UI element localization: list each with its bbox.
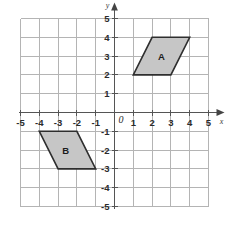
- shape-label-b: B: [62, 145, 69, 156]
- x-tick-label: 1: [131, 117, 137, 128]
- y-tick-label: -4: [101, 182, 110, 193]
- y-tick-label: -3: [101, 163, 109, 174]
- coordinate-plane-figure: -5-4-3-2-11234554321-1-2-3-4-50xy AB: [0, 0, 229, 229]
- y-tick-label: 1: [104, 88, 110, 99]
- y-axis-name-label: y: [105, 1, 110, 10]
- y-tick-label: 2: [104, 69, 109, 80]
- y-tick-label: 5: [104, 13, 110, 24]
- x-tick-label: -1: [91, 117, 100, 128]
- y-tick-label: 4: [104, 32, 110, 43]
- coordinate-plane-svg: -5-4-3-2-11234554321-1-2-3-4-50xy AB: [0, 0, 229, 229]
- x-tick-label: -3: [54, 117, 62, 128]
- origin-label: 0: [119, 114, 124, 125]
- x-axis-name-label: x: [219, 117, 224, 126]
- x-tick-label: -4: [35, 117, 44, 128]
- y-tick-label: -5: [101, 201, 110, 212]
- x-tick-label: -2: [73, 117, 81, 128]
- x-tick-label: 4: [187, 117, 193, 128]
- x-tick-label: 2: [149, 117, 154, 128]
- y-tick-label: -2: [101, 145, 109, 156]
- y-tick-label: -1: [101, 126, 110, 137]
- x-tick-label: 5: [206, 117, 212, 128]
- x-tick-label: -5: [16, 117, 25, 128]
- shape-label-a: A: [158, 51, 165, 62]
- x-tick-label: 3: [168, 117, 173, 128]
- y-tick-label: 3: [104, 51, 109, 62]
